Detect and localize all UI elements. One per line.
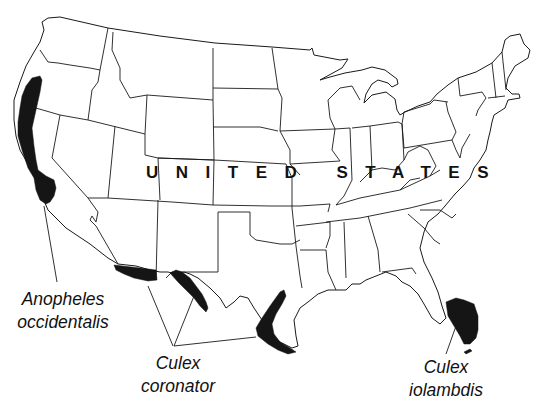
range-culex-iolambdis <box>446 298 478 344</box>
range-culex-coronator-west-texas <box>170 270 208 312</box>
genus: Culex <box>128 352 228 375</box>
species: coronator <box>128 375 228 398</box>
country-label: UNITED STATES <box>146 163 506 183</box>
leader-iolambdis <box>446 326 456 354</box>
label-culex-coronator: Culex coronator <box>128 352 228 398</box>
range-anopheles-occidentalis <box>18 76 56 204</box>
species: occidentalis <box>8 311 118 334</box>
range-culex-coronator-arizona <box>114 265 157 281</box>
us-map <box>0 0 541 404</box>
state-borders <box>22 28 506 290</box>
genus: Anopheles <box>8 288 118 311</box>
genus: Culex <box>396 356 496 379</box>
range-culex-coronator-south-texas <box>256 290 296 354</box>
label-culex-iolambdis: Culex iolambdis <box>396 356 496 402</box>
label-anopheles-occidentalis: Anopheles occidentalis <box>8 288 118 334</box>
leader-coronator-arizona <box>148 286 173 346</box>
leader-coronator-west-texas <box>174 296 194 346</box>
leader-coronator-south-texas <box>174 337 256 346</box>
species: iolambdis <box>396 379 496 402</box>
florida-keys <box>464 349 472 354</box>
